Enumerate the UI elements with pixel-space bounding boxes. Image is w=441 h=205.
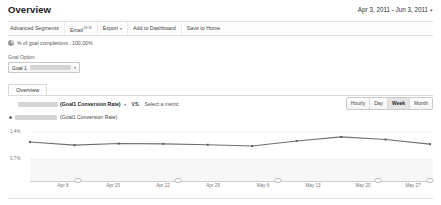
- redacted-text-block: [15, 115, 57, 120]
- axis-handle[interactable]: [275, 178, 282, 183]
- metric-selector-row: (Goal1 Conversion Rate) ▾ VS. Select a m…: [16, 98, 179, 110]
- add-to-dashboard-button[interactable]: Add to Dashboard: [128, 22, 182, 35]
- redacted-text-block: [30, 65, 71, 70]
- chart-legend: (Goal1 Conversion Rate): [9, 114, 117, 120]
- granularity-day[interactable]: Day: [370, 98, 388, 109]
- goal-option-selected-value: Goal 1: [12, 65, 27, 71]
- line-chart-svg: [8, 124, 433, 182]
- email-button[interactable]: EmailBETA: [65, 22, 98, 35]
- x-axis-line: [30, 181, 433, 182]
- bottom-divider: [8, 198, 433, 199]
- data-point[interactable]: [251, 145, 253, 147]
- goal-option-select[interactable]: Goal 1 ▾: [8, 62, 80, 73]
- granularity-toggle: Hourly Day Week Month: [346, 97, 433, 110]
- x-axis-labels: Apr 8 Apr 15 Apr 22 Apr 29 May 6 May 13 …: [8, 183, 433, 193]
- granularity-month[interactable]: Month: [410, 98, 432, 109]
- data-point[interactable]: [429, 143, 431, 145]
- action-bar: Advanced Segments EmailBETA Export▾ Add …: [8, 21, 433, 36]
- panel-tab-bar: Overview: [8, 84, 433, 96]
- goal-option-label: Goal Option: [8, 54, 80, 60]
- x-axis-tick-5: May 13: [305, 183, 320, 188]
- data-point[interactable]: [29, 141, 31, 143]
- goal-option-group: Goal Option Goal 1 ▾: [8, 54, 80, 73]
- x-axis-tick-1: Apr 15: [106, 183, 120, 188]
- page-header: Overview Apr 3, 2011 - Jun 3, 2011▾: [8, 4, 433, 20]
- data-point[interactable]: [296, 140, 298, 142]
- primary-metric-select[interactable]: (Goal1 Conversion Rate) ▾: [16, 100, 128, 109]
- legend-marker-icon: [9, 116, 12, 119]
- axis-handle[interactable]: [175, 178, 182, 183]
- page-title: Overview: [8, 4, 51, 15]
- legend-series-label: (Goal1 Conversion Rate): [60, 114, 117, 120]
- export-button[interactable]: Export▾: [98, 22, 128, 35]
- x-axis-tick-6: May 20: [355, 183, 370, 188]
- goal-completions-strip: % of goal completions : 100.00%: [8, 38, 93, 48]
- email-label: Email: [70, 27, 83, 33]
- date-range-label: Apr 3, 2011 - Jun 3, 2011: [358, 6, 428, 13]
- axis-handle[interactable]: [375, 178, 382, 183]
- chevron-down-icon: ▾: [124, 102, 126, 107]
- x-axis-tick-7: May 27: [405, 183, 420, 188]
- tab-overview-label: Overview: [16, 87, 39, 93]
- analytics-overview-page: Overview Apr 3, 2011 - Jun 3, 2011▾ Adva…: [0, 0, 441, 205]
- data-point[interactable]: [340, 136, 342, 138]
- redacted-text-block: [18, 102, 58, 107]
- line-chart: [8, 124, 433, 182]
- x-axis-tick-0: Apr 8: [58, 183, 69, 188]
- action-bar-items: Advanced Segments EmailBETA Export▾ Add …: [8, 22, 225, 35]
- vs-label: VS.: [132, 101, 140, 107]
- goal-completions-text: % of goal completions : 100.00%: [17, 40, 93, 46]
- axis-handle[interactable]: [427, 178, 434, 183]
- beta-badge: BETA: [84, 26, 92, 30]
- chevron-down-icon: ▾: [430, 7, 433, 13]
- axis-handle[interactable]: [75, 178, 82, 183]
- x-axis-tick-3: Apr 29: [206, 183, 220, 188]
- date-range-picker[interactable]: Apr 3, 2011 - Jun 3, 2011▾: [358, 6, 433, 13]
- pie-chart-icon: [8, 40, 14, 46]
- advanced-segments-label: Advanced Segments: [10, 25, 59, 31]
- granularity-hourly[interactable]: Hourly: [347, 98, 370, 109]
- data-point[interactable]: [118, 143, 120, 145]
- secondary-metric-select[interactable]: Select a metric: [145, 101, 179, 107]
- chevron-down-icon: ▾: [74, 65, 76, 70]
- data-point[interactable]: [385, 138, 387, 140]
- tab-overview[interactable]: Overview: [8, 84, 47, 95]
- save-to-home-label: Save to Home: [187, 25, 221, 31]
- data-point[interactable]: [73, 144, 75, 146]
- overview-panel: Overview (Goal1 Conversion Rate) ▾ VS. S…: [8, 84, 433, 199]
- x-axis-tick-4: May 6: [257, 183, 270, 188]
- chevron-down-icon: ▾: [120, 26, 122, 31]
- advanced-segments-button[interactable]: Advanced Segments: [8, 22, 65, 35]
- save-to-home-button[interactable]: Save to Home: [182, 22, 226, 35]
- x-axis-tick-2: Apr 22: [156, 183, 170, 188]
- primary-metric-label: (Goal1 Conversion Rate): [60, 101, 121, 107]
- data-point[interactable]: [207, 144, 209, 146]
- data-point[interactable]: [162, 143, 164, 145]
- granularity-week[interactable]: Week: [388, 98, 410, 109]
- add-to-dashboard-label: Add to Dashboard: [133, 25, 176, 31]
- export-label: Export: [103, 25, 118, 31]
